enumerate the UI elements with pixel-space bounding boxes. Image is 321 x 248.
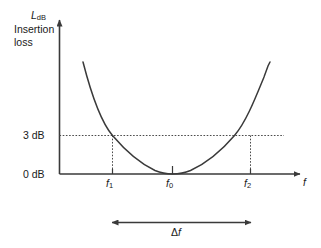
bandwidth-variable: f — [178, 226, 181, 238]
y-axis-caption-line2: loss — [14, 36, 33, 48]
insertion-loss-curve — [83, 62, 270, 174]
figure-container: LdB Insertionloss 3 dB 0 dB f1 f0 f2 f Δ… — [0, 0, 321, 248]
x-tick-label-f0-subscript: 0 — [169, 181, 173, 190]
bandwidth-delta-symbol: Δ — [171, 226, 178, 238]
x-tick-label-f2: f2 — [244, 177, 251, 192]
x-tick-label-f1-subscript: 1 — [109, 181, 113, 190]
y-axis-caption-line1: Insertion — [14, 23, 54, 35]
y-tick-label-0db: 0 dB — [23, 168, 45, 180]
bandwidth-label: Δf — [171, 226, 181, 238]
x-axis-symbol: f — [303, 176, 306, 188]
x-tick-label-f2-subscript: 2 — [247, 181, 251, 190]
y-axis-caption: Insertionloss — [14, 23, 54, 49]
y-tick-label-3db: 3 dB — [23, 129, 45, 141]
y-axis-symbol-subscript: dB — [37, 13, 46, 22]
x-tick-label-f0: f0 — [166, 177, 173, 192]
x-tick-label-f1: f1 — [106, 177, 113, 192]
